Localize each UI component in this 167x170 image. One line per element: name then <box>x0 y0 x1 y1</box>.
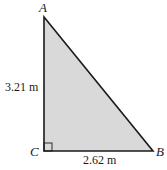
side-label-ac: 3.21 m <box>5 80 39 94</box>
side-label-cb: 2.62 m <box>83 153 117 167</box>
triangle-abc <box>44 17 153 151</box>
vertex-label-c: C <box>30 144 39 159</box>
vertex-label-a: A <box>38 0 47 15</box>
triangle-diagram: A C B 3.21 m 2.62 m <box>0 0 167 170</box>
vertex-label-b: B <box>156 144 164 159</box>
